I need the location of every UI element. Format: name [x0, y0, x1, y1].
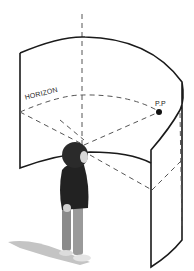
pp-point	[156, 109, 162, 115]
person-figure	[59, 142, 91, 262]
horizon-line	[20, 95, 160, 112]
perspective-diagram	[0, 0, 194, 271]
sight-lines	[20, 112, 182, 230]
pp-label: P.P	[155, 100, 166, 107]
